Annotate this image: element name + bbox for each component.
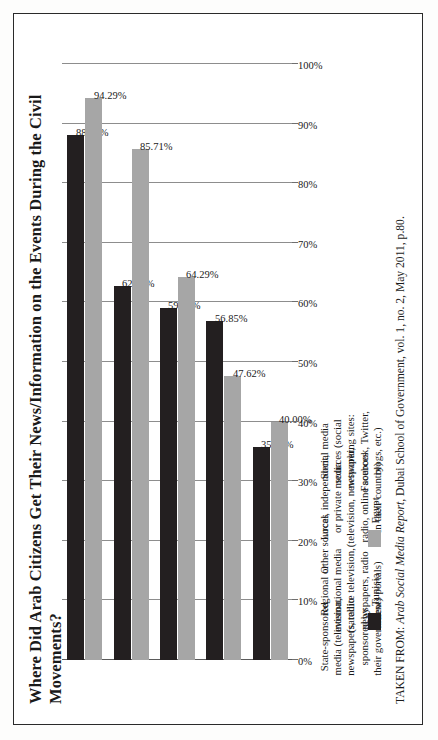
page: Where Did Arab Citizens Get Their News/I… [0,0,438,740]
legend-swatch [368,530,381,547]
tick-label: 70% [298,239,317,250]
bar-group: 62.70%85.71% [108,64,154,660]
source-prefix: TAKEN FROM: [394,624,407,704]
bar-group: 59.09%64.29% [155,64,201,660]
legend-item[interactable]: Tunisia [368,573,381,630]
source-citation: TAKEN FROM: Arab Social Media Report, Du… [394,36,407,704]
bar-group: 56.85%47.62% [201,64,247,660]
chart-plot-area: 88.10%94.29%62.70%85.71%59.09%64.29%56.8… [62,64,294,660]
tick-label: 50% [298,358,317,369]
tick-label: 20% [298,537,317,548]
tick-label: 0% [298,656,312,667]
tick-label: 60% [298,298,317,309]
tick-label: 80% [298,179,317,190]
tick-label: 90% [298,120,317,131]
legend-swatch [368,613,381,630]
bar-tunisia: 62.70% [114,286,131,660]
bar-tunisia: 35.71% [253,447,270,660]
bar-tunisia: 88.10% [67,135,84,660]
bar-egypt: 64.29% [178,277,195,660]
chart-legend: TunisiaEgypt [368,497,381,630]
source-title: Arab Social Media Report [394,502,407,624]
legend-label: Tunisia [369,573,381,606]
bar-tunisia: 56.85% [206,321,223,660]
bar-value-label: 56.85% [215,313,247,324]
figure-frame: Where Did Arab Citizens Get Their News/I… [13,13,423,725]
legend-item[interactable]: Egypt [368,497,381,547]
bar-egypt: 47.62% [224,376,241,660]
source-rest: , Dubai School of Government, vol. 1, no… [394,216,407,502]
rotated-figure-canvas: Where Did Arab Citizens Get Their News/I… [16,16,420,722]
bar-egypt: 94.29% [85,98,102,660]
bar-groups: 88.10%94.29%62.70%85.71%59.09%64.29%56.8… [62,64,294,660]
tick-label: 40% [298,418,317,429]
bar-group: 35.71%40.00% [248,64,294,660]
bar-group: 88.10%94.29% [62,64,108,660]
page-title: Where Did Arab Citizens Get Their News/I… [26,34,66,704]
bar-egypt: 40.00% [271,422,288,660]
bar-tunisia: 59.09% [160,308,177,660]
tick-label: 10% [298,596,317,607]
bar-egypt: 85.71% [132,149,149,660]
legend-label: Egypt [369,497,381,523]
tick-label: 30% [298,477,317,488]
